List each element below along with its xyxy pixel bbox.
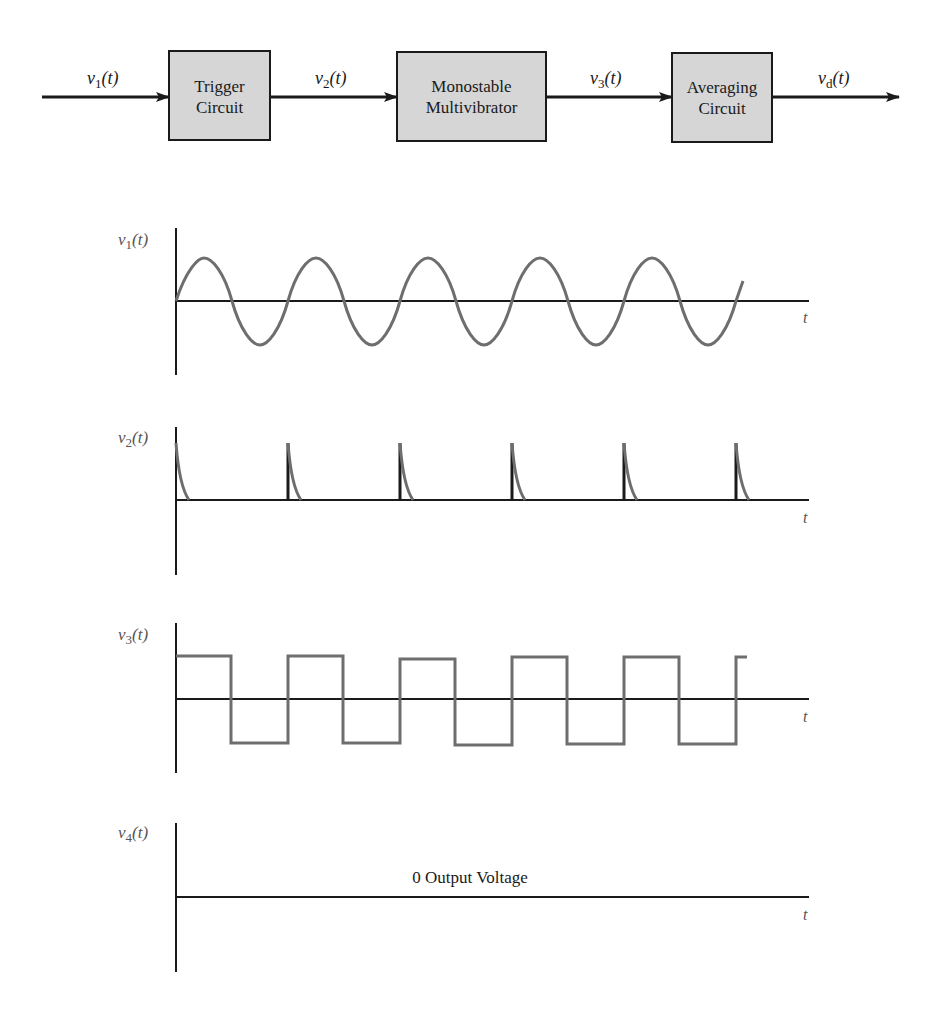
signal-label-v1: v1(t) [87,68,119,91]
x-axis-label: t [803,509,808,526]
zero-output-annotation: 0 Output Voltage [412,868,528,887]
signal-label-vd: vd(t) [818,68,850,91]
trigger-spikes [176,443,749,500]
monostable-multivibrator-block: Monostable Multivibrator [397,52,546,141]
fm-demodulator-diagram: Trigger Circuit Monostable Multivibrator… [0,0,943,1025]
averaging-circuit-block: Averaging Circuit [672,53,772,142]
block-label-line1: Trigger [194,77,245,96]
trigger-circuit-block: Trigger Circuit [169,51,270,140]
y-axis-label: v4(t) [118,823,148,845]
y-axis-label: v3(t) [118,625,148,647]
signal-label-v2: v2(t) [315,68,347,91]
x-axis-label: t [803,906,808,923]
block-label-line2: Circuit [196,98,243,117]
plot-v1: v1(t) t [118,228,809,375]
x-axis-label: t [803,309,808,326]
square-waveform [176,656,747,745]
block-label-line2: Multivibrator [426,98,518,117]
block-diagram: Trigger Circuit Monostable Multivibrator… [42,51,899,142]
block-label-line1: Averaging [687,78,758,97]
y-axis-label: v2(t) [118,428,148,450]
block-label-line2: Circuit [698,99,745,118]
y-axis-label: v1(t) [118,230,148,252]
plot-v4: 0 Output Voltage v4(t) t [118,823,809,972]
signal-label-v3: v3(t) [590,68,622,91]
x-axis-label: t [803,708,808,725]
block-label-line1: Monostable [431,77,511,96]
plot-v2: v2(t) t [118,427,809,575]
plot-v3: v3(t) t [118,623,809,773]
